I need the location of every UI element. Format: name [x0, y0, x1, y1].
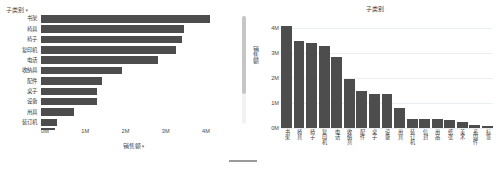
horizontal-bar-track	[41, 35, 222, 45]
vertical-chart-x-axis-labels: 书架椅具椅子复印机电话收纳具配件桌子设备用具装订机信封用品纸张美术系固件标签	[281, 129, 493, 169]
vertical-bar-cell[interactable]	[407, 18, 418, 128]
horizontal-bar-track	[41, 76, 222, 86]
horizontal-chart-x-axis-title[interactable]: 销售额▾	[45, 141, 222, 150]
y-axis-tick-label: 3M	[271, 50, 279, 56]
vertical-bar[interactable]	[382, 94, 393, 128]
vertical-bar[interactable]	[407, 119, 418, 129]
vertical-bar[interactable]	[356, 91, 367, 128]
vertical-bar-label-cell: 收纳具	[344, 129, 355, 169]
horizontal-bar[interactable]	[41, 98, 97, 106]
horizontal-bar-row[interactable]: 桌子	[0, 86, 222, 96]
vertical-bar[interactable]	[457, 122, 468, 129]
vertical-bar[interactable]	[281, 26, 292, 129]
horizontal-bar-row[interactable]: 配件	[0, 76, 222, 86]
horizontal-bar-category-label: 椅具	[0, 27, 41, 32]
vertical-bar-cell[interactable]	[369, 18, 380, 128]
footer-rule	[229, 160, 257, 162]
vertical-bar[interactable]	[369, 94, 380, 128]
scrollbar-thumb[interactable]	[242, 16, 246, 94]
vertical-bar[interactable]	[344, 79, 355, 129]
chevron-down-icon[interactable]: ▾	[142, 143, 145, 149]
chevron-down-icon[interactable]: ▾	[26, 7, 29, 13]
vertical-bar-category-label: 设备	[384, 129, 389, 139]
horizontal-bar-track	[41, 45, 222, 55]
horizontal-bar-row[interactable]: 椅具	[0, 24, 222, 34]
vertical-bar-category-label: 电话	[334, 129, 339, 139]
horizontal-bar-track	[41, 55, 222, 65]
vertical-bar[interactable]	[319, 46, 330, 128]
vertical-bar-label-cell: 纸张	[444, 129, 455, 169]
horizontal-bar[interactable]	[41, 88, 97, 96]
horizontal-bar-track	[41, 14, 222, 24]
horizontal-bar-category-label: 装订机	[0, 120, 41, 125]
vertical-chart-y-axis: 0M1M2M3M4M	[261, 18, 279, 128]
horizontal-bar-row[interactable]: 用具	[0, 107, 222, 117]
vertical-bar[interactable]	[469, 125, 480, 128]
vertical-bar-cell[interactable]	[432, 18, 443, 128]
vertical-bar-cell[interactable]	[419, 18, 430, 128]
horizontal-bar-category-label: 书架	[0, 16, 41, 21]
vertical-bar-category-label: 用具	[397, 129, 402, 139]
vertical-bar-label-cell: 配件	[356, 129, 367, 169]
horizontal-bar-row[interactable]: 复印机	[0, 45, 222, 55]
horizontal-bar-row[interactable]: 电话	[0, 55, 222, 65]
vertical-bar[interactable]	[444, 120, 455, 129]
vertical-bar[interactable]	[482, 126, 493, 129]
horizontal-bar-row[interactable]: 椅子	[0, 35, 222, 45]
vertical-bar[interactable]	[394, 108, 405, 128]
horizontal-bar[interactable]	[41, 15, 210, 23]
horizontal-bar[interactable]	[41, 67, 122, 75]
horizontal-bar-track	[41, 117, 222, 127]
vertical-bar-label-cell: 复印机	[319, 129, 330, 169]
horizontal-bar-category-label: 复印机	[0, 48, 41, 53]
subcategory-field-label: 子类别	[6, 7, 25, 13]
vertical-bar-cell[interactable]	[482, 18, 493, 128]
horizontal-bar-category-label: 配件	[0, 79, 41, 84]
vertical-bar-cell[interactable]	[469, 18, 480, 128]
horizontal-bar[interactable]	[41, 77, 102, 85]
horizontal-bar-track	[41, 24, 222, 34]
vertical-bar-cell[interactable]	[294, 18, 305, 128]
horizontal-bar[interactable]	[41, 36, 182, 44]
vertical-bar-label-cell: 书架	[281, 129, 292, 169]
vertical-bar-category-label: 用品	[435, 129, 440, 139]
vertical-scrollbar[interactable]	[242, 16, 246, 124]
vertical-bars-plot-area	[281, 18, 493, 128]
horizontal-bar[interactable]	[41, 56, 158, 64]
vertical-bar[interactable]	[306, 43, 317, 129]
vertical-bar-cell[interactable]	[394, 18, 405, 128]
vertical-bar-label-cell: 信封	[419, 129, 430, 169]
horizontal-bar-row[interactable]: 书架	[0, 14, 222, 24]
vertical-bar-cell[interactable]	[331, 18, 342, 128]
horizontal-chart-x-axis: 0M1M2M3M4M	[45, 128, 222, 140]
horizontal-bar[interactable]	[41, 108, 74, 116]
vertical-bar-cell[interactable]	[457, 18, 468, 128]
horizontal-bar-row[interactable]: 设备	[0, 97, 222, 107]
vertical-bar-label-cell: 椅具	[294, 129, 305, 169]
vertical-bar-category-label: 椅具	[296, 129, 301, 139]
vertical-bar-cell[interactable]	[306, 18, 317, 128]
horizontal-bar-row[interactable]: 装订机	[0, 117, 222, 127]
vertical-bar-label-cell: 用具	[394, 129, 405, 169]
horizontal-bar[interactable]	[41, 25, 184, 33]
vertical-bar-cell[interactable]	[382, 18, 393, 128]
vertical-bar-cell[interactable]	[356, 18, 367, 128]
horizontal-bar[interactable]	[41, 119, 57, 127]
vertical-bar-cell[interactable]	[319, 18, 330, 128]
vertical-bar-cell[interactable]	[444, 18, 455, 128]
vertical-bars-group	[281, 18, 493, 128]
x-axis-tick-label: 1M	[81, 128, 89, 134]
vertical-bar-cell[interactable]	[281, 18, 292, 128]
vertical-bar-cell[interactable]	[344, 18, 355, 128]
vertical-bar[interactable]	[432, 119, 443, 128]
horizontal-bar-row[interactable]: 收纳具	[0, 66, 222, 76]
subcategory-field-header[interactable]: 子类别▾	[6, 5, 28, 14]
vertical-bar[interactable]	[419, 119, 430, 128]
horizontal-bar-category-label: 设备	[0, 99, 41, 104]
horizontal-bar-track	[41, 97, 222, 107]
horizontal-bar[interactable]	[41, 46, 176, 54]
vertical-bar[interactable]	[294, 41, 305, 128]
vertical-bar-label-cell: 椅子	[306, 129, 317, 169]
vertical-bar[interactable]	[331, 57, 342, 128]
y-axis-tick-label: 0M	[271, 125, 279, 131]
